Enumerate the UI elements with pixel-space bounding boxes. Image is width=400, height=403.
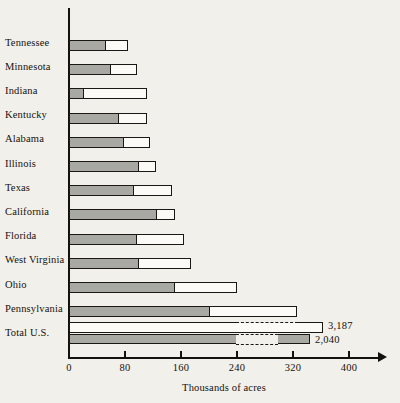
bar-total-texas xyxy=(69,185,172,196)
bar-total-minnesota xyxy=(69,64,137,75)
bar-total-florida xyxy=(69,234,184,245)
bar-total-us-inner-break-bottom xyxy=(236,344,278,345)
bar-chart: 080160240320400 Thousands of acres Tenne… xyxy=(0,0,400,403)
x-tick-240 xyxy=(236,351,237,358)
row-label-west-virginia: West Virginia xyxy=(5,254,64,265)
bar-shaded-tennessee xyxy=(70,41,106,50)
x-tick-label-160: 160 xyxy=(173,362,189,373)
row-label-pennsylvania: Pennsylvania xyxy=(5,303,63,314)
bar-total-tennessee xyxy=(69,40,128,51)
value-label-total-us-outer: 3,187 xyxy=(328,320,353,331)
x-tick-80 xyxy=(124,351,125,358)
x-tick-label-0: 0 xyxy=(66,362,71,373)
row-label-illinois: Illinois xyxy=(5,158,36,169)
bar-total-us-outer xyxy=(69,322,323,333)
row-label-texas: Texas xyxy=(5,182,30,193)
bar-shaded-kentucky xyxy=(70,114,119,123)
bar-total-ohio xyxy=(69,282,237,293)
value-label-total-us-inner: 2,040 xyxy=(315,334,340,345)
row-label-california: California xyxy=(5,206,49,217)
row-label-tennessee: Tennessee xyxy=(5,37,49,48)
row-label-total-u-s: Total U.S. xyxy=(5,327,49,338)
bar-shaded-indiana xyxy=(70,89,84,98)
bar-shaded-alabama xyxy=(70,138,124,147)
bar-shaded-texas xyxy=(70,186,134,195)
x-axis-arrow-icon xyxy=(378,352,387,362)
x-tick-label-240: 240 xyxy=(229,362,245,373)
row-label-ohio: Ohio xyxy=(5,279,27,290)
bar-total-california xyxy=(69,209,175,220)
bar-shaded-ohio xyxy=(70,283,175,292)
bar-total-west-virginia xyxy=(69,258,191,269)
x-tick-320 xyxy=(292,351,293,358)
bar-total-kentucky xyxy=(69,113,147,124)
x-axis-title: Thousands of acres xyxy=(68,382,380,393)
bar-total-us-inner-right xyxy=(278,334,310,344)
x-tick-label-400: 400 xyxy=(341,362,357,373)
row-label-alabama: Alabama xyxy=(5,133,44,144)
x-tick-0 xyxy=(68,351,69,358)
x-tick-400 xyxy=(348,351,349,358)
bar-total-indiana xyxy=(69,88,147,99)
bar-shaded-california xyxy=(70,210,157,219)
bar-total-illinois xyxy=(69,161,156,172)
bar-shaded-pennsylvania xyxy=(70,307,210,316)
bar-total-us-inner-break-top xyxy=(236,334,278,335)
row-label-indiana: Indiana xyxy=(5,85,38,96)
bar-total-pennsylvania xyxy=(69,306,297,317)
bar-shaded-illinois xyxy=(70,162,139,171)
bar-shaded-florida xyxy=(70,235,137,244)
x-tick-label-320: 320 xyxy=(285,362,301,373)
bar-total-us-outer-break-dash xyxy=(236,322,298,323)
bar-shaded-minnesota xyxy=(70,65,111,74)
x-axis-line xyxy=(68,357,380,359)
row-label-kentucky: Kentucky xyxy=(5,109,47,120)
x-tick-label-80: 80 xyxy=(120,362,131,373)
row-label-minnesota: Minnesota xyxy=(5,61,51,72)
bar-total-alabama xyxy=(69,137,150,148)
row-label-florida: Florida xyxy=(5,230,36,241)
x-tick-160 xyxy=(180,351,181,358)
bar-total-us-inner-left xyxy=(69,334,236,344)
bar-shaded-west-virginia xyxy=(70,259,139,268)
